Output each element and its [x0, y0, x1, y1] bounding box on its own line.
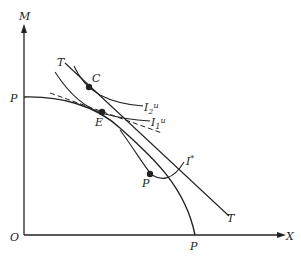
indifference-istar-render: [119, 127, 184, 178]
point-e: [99, 109, 105, 115]
ppf-label-y-axis: P: [9, 92, 18, 105]
i-star-line: [120, 133, 183, 175]
indifference-curve-i2u: [74, 66, 143, 106]
x-axis-arrow-icon: [277, 232, 286, 238]
origin-label: O: [10, 231, 19, 244]
tangent-label-top: T: [57, 56, 66, 69]
istar-curve: [118, 130, 183, 175]
i-star-curve-drawn: [125, 138, 182, 177]
istar-indifference: [140, 157, 184, 177]
i-star-render: [115, 122, 183, 179]
indifference-i2u-label: I2u: [143, 101, 159, 116]
indifference-i1u-label: I1u: [150, 116, 166, 131]
i-star: [135, 150, 185, 179]
istar-final: [120, 133, 183, 177]
point-c-label: C: [92, 72, 101, 85]
istar-curve-final: [113, 118, 184, 177]
x-axis-label: X: [285, 230, 295, 243]
diagram-canvas: M X O P P T T C E P I2u I1u I*: [0, 0, 301, 258]
istar-segment: [137, 153, 184, 179]
indifference-curve-star: [136, 152, 185, 179]
i2u-sup: u: [153, 101, 158, 110]
indifference-i-star: [122, 135, 184, 177]
point-e-label: E: [94, 116, 103, 129]
tangent-label-bottom: T: [227, 212, 236, 225]
indifference-istar-label: I*: [185, 154, 194, 168]
point-p-label: P: [141, 177, 150, 190]
istar-sup: *: [190, 154, 194, 163]
ppf-curve: [24, 97, 195, 235]
i1u-sup: u: [160, 116, 165, 125]
ppf-label-x-axis: P: [189, 240, 198, 253]
y-axis-label: M: [18, 10, 31, 23]
y-axis-arrow-icon: [21, 24, 27, 33]
